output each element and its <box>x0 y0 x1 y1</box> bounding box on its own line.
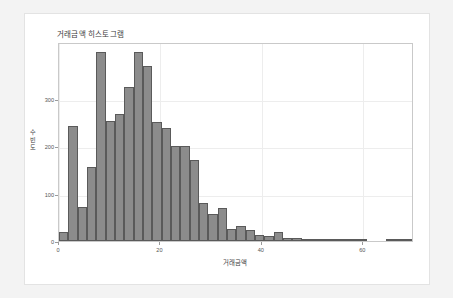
histogram-bar <box>96 52 105 241</box>
histogram-bar <box>405 239 413 241</box>
histogram-bar <box>311 239 320 241</box>
histogram-bar <box>274 232 283 241</box>
histogram-bar <box>87 167 96 241</box>
histogram-bar <box>218 208 227 241</box>
y-axis-label-char-0: 수 <box>28 128 38 136</box>
y-axis-tick-label: 100 <box>45 192 54 198</box>
y-axis-tick-label: 300 <box>45 97 54 103</box>
x-axis-tick-mark <box>58 242 59 245</box>
histogram-bar <box>115 114 124 241</box>
x-axis-tick-mark <box>362 242 363 245</box>
histogram-bar <box>106 121 115 241</box>
histogram-bar <box>320 239 329 241</box>
x-axis-tick-mark <box>159 242 160 245</box>
histogram-bar <box>78 207 87 241</box>
y-axis-tick-label: 0 <box>51 239 54 245</box>
histogram-bar <box>339 239 348 241</box>
histogram-bar <box>134 52 143 241</box>
histogram-bar <box>59 232 68 241</box>
histogram-bar <box>292 238 301 241</box>
y-axis-label-char-1: 빈 <box>28 136 38 144</box>
histogram-bar <box>227 229 236 241</box>
y-axis-tick-labels: 0100200300 <box>40 43 54 242</box>
histogram-bar <box>171 146 180 241</box>
histogram-bar <box>208 214 217 241</box>
x-axis-label: 거래금액 <box>200 258 270 267</box>
histogram-bar <box>162 128 171 241</box>
histogram-bar <box>264 236 273 241</box>
histogram-bar <box>199 203 208 241</box>
x-axis-tick-label: 40 <box>258 247 264 253</box>
x-axis-tick-label: 20 <box>156 247 162 253</box>
histogram-bar <box>246 230 255 241</box>
histogram-bar <box>386 239 395 241</box>
histogram-bars <box>59 44 412 241</box>
histogram-bar <box>255 235 264 241</box>
x-axis-tick-mark <box>261 242 262 245</box>
histogram-bar <box>152 122 161 241</box>
histogram-bar <box>190 160 199 241</box>
histogram-bar <box>395 239 404 241</box>
x-axis-ticks: 0204060 <box>58 242 413 258</box>
histogram-bar <box>68 126 77 241</box>
y-axis-label-char-2: 도 <box>28 143 38 151</box>
y-axis-tick-label: 200 <box>45 144 54 150</box>
screenshot-page: 거래금액 히스토그램 수 빈 도 0100200300 0204060 거래금액 <box>0 0 453 298</box>
histogram-bar <box>358 239 367 241</box>
x-axis-tick-label: 60 <box>359 247 365 253</box>
histogram-bar <box>348 239 357 241</box>
histogram-bar <box>236 226 245 241</box>
histogram-bar <box>302 239 311 241</box>
plot-area <box>58 43 413 242</box>
histogram-bar <box>124 87 133 241</box>
x-axis-tick-label: 0 <box>56 247 59 253</box>
histogram-bar <box>180 146 189 241</box>
histogram-bar <box>330 239 339 241</box>
chart-title: 거래금액 히스토그램 <box>57 28 124 39</box>
histogram-bar <box>283 238 292 241</box>
y-axis-label: 수 빈 도 <box>28 128 38 151</box>
histogram-bar <box>143 66 152 241</box>
